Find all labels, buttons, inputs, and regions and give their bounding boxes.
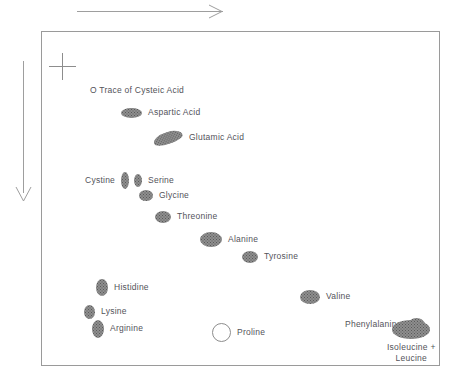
spot-isoleucine-leucine-label-line2: Leucine bbox=[387, 353, 436, 364]
spot-alanine: Alanine bbox=[200, 232, 258, 247]
spot-isoleucine-leucine: Isoleucine +Leucine bbox=[387, 320, 436, 365]
spot-cystine-label: Cystine bbox=[85, 175, 115, 186]
spot-valine-label: Valine bbox=[326, 291, 351, 302]
spot-cysteic-acid: O Trace of Cysteic Acid bbox=[90, 85, 184, 96]
spot-lysine-blob bbox=[84, 305, 95, 319]
spot-cysteic-acid-label: O Trace of Cysteic Acid bbox=[90, 85, 184, 96]
spot-aspartic-acid-label: Aspartic Acid bbox=[148, 107, 200, 118]
spot-tyrosine: Tyrosine bbox=[242, 251, 298, 263]
spot-arginine-blob bbox=[92, 320, 104, 338]
spot-aspartic-acid: Aspartic Acid bbox=[121, 107, 200, 118]
spot-glycine: Glycine bbox=[139, 190, 189, 201]
spot-histidine-label: Histidine bbox=[114, 282, 149, 293]
spot-glutamic-acid-label: Glutamic Acid bbox=[189, 132, 244, 143]
spot-arginine-label: Arginine bbox=[110, 323, 143, 334]
spot-aspartic-acid-blob bbox=[121, 108, 142, 118]
spot-serine-label: Serine bbox=[148, 175, 174, 186]
spot-arginine: Arginine bbox=[92, 320, 143, 338]
spot-threonine-blob bbox=[155, 211, 171, 223]
spot-cystine-blob bbox=[121, 172, 129, 189]
spot-histidine: Histidine bbox=[96, 279, 149, 296]
spot-alanine-blob bbox=[200, 232, 222, 247]
spot-histidine-blob bbox=[96, 279, 108, 296]
spot-glycine-blob bbox=[139, 190, 153, 201]
spot-threonine-label: Threonine bbox=[177, 211, 218, 222]
second-dimension-arrow-head bbox=[15, 186, 32, 202]
spot-lysine-label: Lysine bbox=[101, 306, 127, 317]
spot-valine-blob bbox=[300, 290, 320, 304]
spot-glycine-label: Glycine bbox=[159, 190, 189, 201]
origin-cross-icon bbox=[49, 53, 76, 80]
spot-proline-label: Proline bbox=[237, 327, 265, 338]
chromatogram-figure: O Trace of Cysteic AcidAspartic AcidGlut… bbox=[0, 0, 454, 383]
spot-proline: Proline bbox=[212, 323, 265, 342]
spot-tyrosine-blob bbox=[242, 251, 258, 263]
spot-valine: Valine bbox=[300, 290, 351, 304]
spot-proline-blob bbox=[212, 323, 231, 342]
spot-tyrosine-label: Tyrosine bbox=[264, 251, 298, 262]
spot-serine-blob bbox=[134, 174, 142, 187]
spot-serine: Serine bbox=[134, 174, 174, 187]
spot-isoleucine-leucine-label: Isoleucine +Leucine bbox=[387, 342, 436, 365]
spot-threonine: Threonine bbox=[155, 211, 218, 223]
spot-isoleucine-leucine-label-line1: Isoleucine + bbox=[387, 342, 436, 353]
spot-cystine: Cystine bbox=[85, 172, 129, 189]
origin-cross-vertical-bar bbox=[62, 53, 63, 80]
spot-glutamic-acid: Glutamic Acid bbox=[153, 132, 244, 144]
spot-lysine: Lysine bbox=[84, 305, 127, 319]
first-dimension-arrow-shaft bbox=[77, 11, 223, 12]
first-dimension-arrow-head bbox=[208, 4, 223, 19]
spot-alanine-label: Alanine bbox=[228, 234, 258, 245]
spot-isoleucine-leucine-blob bbox=[392, 320, 430, 339]
second-dimension-arrow-shaft bbox=[23, 61, 24, 193]
